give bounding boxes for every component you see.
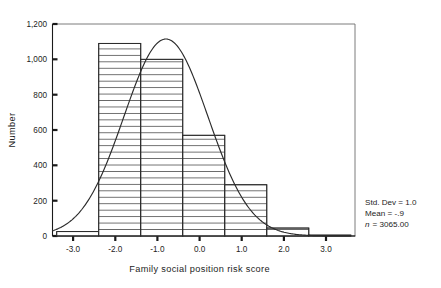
x-tick-label: -2.0 [108, 245, 123, 254]
histogram-figure: 1,200 1,000 800 600 400 200 0 Number -3.… [0, 0, 441, 288]
y-tick-label: 0 [42, 232, 47, 241]
x-axis-title: Family social position risk score [129, 264, 270, 274]
mean-label: Mean = -.9 [365, 209, 404, 218]
histogram-bar-hatch [183, 135, 225, 236]
x-tick-label: 0.0 [194, 245, 206, 254]
y-tick-label: 200 [33, 197, 47, 206]
y-axis-ticks [53, 24, 58, 236]
n-symbol: n [365, 220, 370, 229]
stats-annotation: Std. Dev = 1.0 Mean = -.9 n= 3065.00 [365, 198, 417, 229]
x-tick-label: 3.0 [320, 245, 332, 254]
y-axis-title: Number [7, 113, 17, 148]
histogram-bar-hatch [99, 43, 141, 236]
histogram-bar-hatch [141, 59, 183, 236]
histogram-bar-hatch [57, 232, 99, 236]
x-tick-label: -3.0 [66, 245, 81, 254]
y-tick-label: 1,200 [27, 20, 48, 29]
y-tick-label: 800 [33, 91, 47, 100]
std-dev-label: Std. Dev = 1.0 [365, 198, 417, 207]
x-tick-label: 1.0 [236, 245, 248, 254]
x-tick-label: -1.0 [150, 245, 165, 254]
histogram-bars [57, 43, 351, 236]
y-tick-label: 400 [33, 161, 47, 170]
y-tick-label: 600 [33, 126, 47, 135]
y-tick-label: 1,000 [27, 55, 48, 64]
x-axis-ticks [73, 236, 326, 241]
x-tick-label: 2.0 [278, 245, 290, 254]
y-axis-labels: 1,200 1,000 800 600 400 200 0 [27, 20, 48, 241]
chart-canvas: 1,200 1,000 800 600 400 200 0 Number -3.… [0, 0, 441, 288]
n-value: = 3065.00 [373, 220, 410, 229]
x-axis-labels: -3.0 -2.0 -1.0 0.0 1.0 2.0 3.0 [66, 245, 332, 254]
histogram-bar-hatch [225, 185, 267, 236]
n-label: n= 3065.00 [365, 220, 409, 229]
